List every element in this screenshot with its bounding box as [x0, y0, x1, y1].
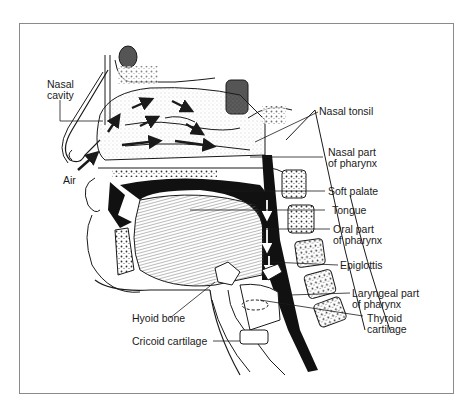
label-nasal-cavity: Nasal cavity	[47, 79, 74, 101]
neck-skin	[210, 290, 240, 375]
hard-palate	[98, 168, 290, 180]
label-laryngeal-part-of-pharynx: Laryngeal part of pharynx	[352, 288, 419, 310]
label-cricoid-cartilage: Cricoid cartilage	[132, 336, 207, 347]
label-hyoid-bone: Hyoid bone	[132, 313, 185, 324]
label-tongue: Tongue	[332, 205, 366, 216]
lips-and-teeth	[85, 178, 140, 292]
label-epiglottis: Epiglottis	[340, 260, 383, 271]
tongue	[134, 195, 264, 286]
label-thyroid-cartilage: Thyroid cartilage	[367, 313, 407, 335]
label-nasal-part-of-pharynx: Nasal part of pharynx	[328, 147, 377, 169]
label-soft-palate: Soft palate	[328, 186, 378, 197]
label-air: Air	[63, 175, 76, 186]
label-oral-part-of-pharynx: Oral part of pharynx	[333, 224, 382, 246]
label-nasal-tonsil: Nasal tonsil	[319, 106, 373, 117]
anatomy-illustration	[0, 0, 469, 409]
